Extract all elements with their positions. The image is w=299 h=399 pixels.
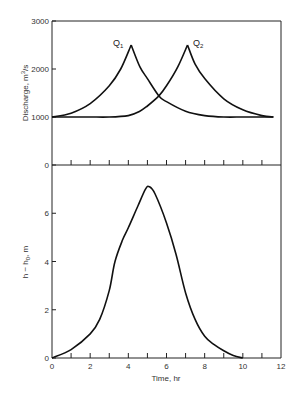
tick-label: 4 (45, 258, 50, 267)
tick-label: 2 (88, 362, 93, 371)
tick-label: 10 (238, 362, 247, 371)
stage-line (52, 186, 243, 358)
tick-label: 6 (164, 362, 169, 371)
tick-label: 8 (202, 362, 207, 371)
tick-label: 2000 (31, 65, 49, 74)
lower-y-axis-title: h − h0, m (21, 245, 31, 278)
q1-line (52, 45, 273, 117)
x-axis-title: Time, hr (151, 374, 180, 383)
tick-label: 4 (126, 362, 131, 371)
chart-frame (52, 21, 281, 358)
axis-ticks (52, 21, 262, 358)
tick-labels: 01000200030000246024681012 (31, 17, 286, 371)
tick-label: 12 (277, 362, 286, 371)
tick-label: 1000 (31, 113, 49, 122)
tick-label: 2 (45, 306, 50, 315)
tick-label: 0 (45, 161, 50, 170)
tick-label: 6 (45, 209, 50, 218)
q2-label: Q2 (193, 38, 204, 49)
tick-label: 3000 (31, 17, 49, 26)
hydrograph-chart: 01000200030000246024681012 Q1 Q2 Dischar… (0, 0, 299, 399)
upper-y-axis-title: Discharge, m3/s (20, 65, 30, 122)
q1-label: Q1 (113, 38, 124, 49)
tick-label: 0 (50, 362, 55, 371)
